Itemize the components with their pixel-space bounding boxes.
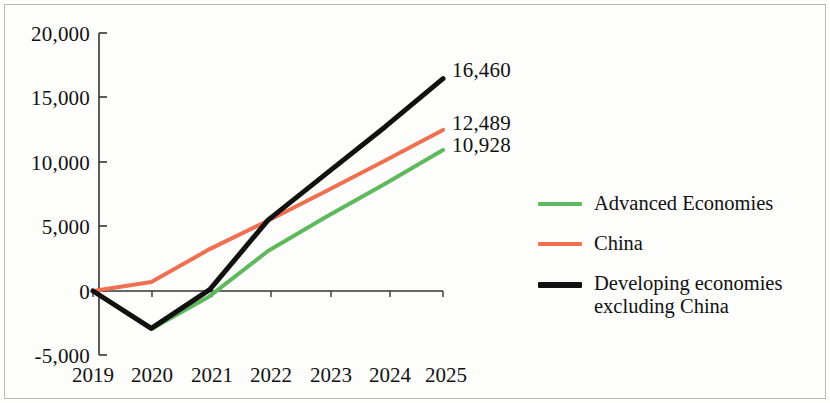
legend-label-china: China bbox=[594, 232, 643, 255]
legend-label-advanced-economies: Advanced Economies bbox=[594, 192, 773, 215]
series-line-china bbox=[93, 130, 443, 291]
y-tick-label-15000: 15,000 bbox=[8, 86, 90, 111]
legend-color-swatch-green bbox=[538, 202, 582, 206]
legend-item-china: China bbox=[538, 232, 828, 255]
chart-legend: Advanced Economies China Developing econ… bbox=[538, 192, 828, 335]
y-tick-label-0: 0 bbox=[8, 280, 90, 305]
legend-label-developing-economies: Developing economies excluding China bbox=[594, 272, 826, 318]
legend-item-advanced-economies: Advanced Economies bbox=[538, 192, 828, 215]
legend-item-developing-economies: Developing economies excluding China bbox=[538, 272, 828, 318]
y-tick-label-10000: 10,000 bbox=[8, 151, 90, 176]
y-axis-ticks bbox=[99, 33, 107, 355]
chart-figure: 20,000 15,000 10,000 5,000 0 -5,000 2019… bbox=[0, 0, 830, 403]
y-tick-label-5000: 5,000 bbox=[8, 215, 90, 240]
series-line-advanced-economies bbox=[93, 150, 443, 329]
legend-color-swatch-orange bbox=[538, 242, 582, 246]
value-label-developing-economies: 16,460 bbox=[452, 58, 511, 83]
legend-color-swatch-black bbox=[538, 282, 582, 288]
value-label-advanced-economies: 10,928 bbox=[452, 133, 511, 158]
x-axis-ticks bbox=[93, 291, 443, 297]
x-tick-label-2025: 2025 bbox=[411, 363, 481, 388]
y-tick-label-20000: 20,000 bbox=[8, 22, 90, 47]
